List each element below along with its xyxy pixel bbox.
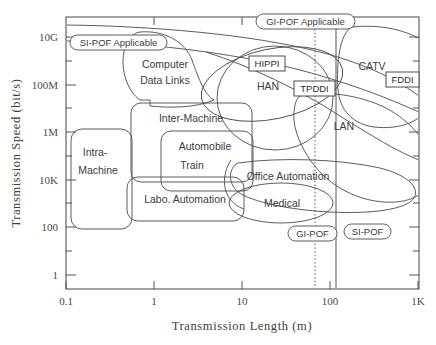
x-tick-0p1: 0.1 [59, 295, 73, 307]
label-office-automation: Office Automation [247, 170, 330, 182]
label-automobile: Automobile [179, 140, 232, 152]
pill-gi-pof-applicable-label: GI-POF Applicable [266, 16, 345, 27]
label-intra: Intra- [83, 146, 108, 158]
box-hippi: HIPPI [249, 56, 285, 71]
pill-si-pof-applicable: SI-POF Applicable [70, 35, 167, 50]
curve-office-left-connector [224, 160, 244, 209]
y-tick-1m: 1M [43, 126, 59, 138]
pill-gi-pof: GI-POF [288, 226, 337, 241]
chart-figure: 10G 100M 1M 10K 100 1 0.1 1 10 100 1K Tr… [0, 0, 436, 345]
pill-si-pof: SI-POF [344, 224, 391, 239]
box-tpddi-label: TPDDI [300, 83, 329, 94]
label-han: HAN [257, 80, 279, 92]
x-tick-10: 10 [237, 295, 249, 307]
y-axis-title: Transmission Speed (bit/s) [9, 78, 23, 227]
region-intra-machine [71, 129, 132, 229]
label-lan: LAN [334, 120, 354, 132]
pill-gi-pof-label: GI-POF [296, 228, 329, 239]
pill-si-pof-applicable-label: SI-POF Applicable [80, 37, 158, 48]
curve-pof-mid [206, 52, 419, 160]
label-medical: Medical [264, 197, 300, 209]
y-tick-100: 100 [42, 221, 59, 233]
pill-gi-pof-applicable: GI-POF Applicable [256, 14, 355, 29]
box-fddi-label: FDDI [391, 74, 413, 85]
label-train: Train [180, 159, 204, 171]
y-tick-10k: 10K [39, 174, 58, 186]
box-tpddi: TPDDI [294, 81, 335, 96]
y-axis-tick-labels: 10G 100M 1M 10K 100 1 [32, 31, 59, 281]
y-tick-1: 1 [53, 269, 59, 281]
pill-si-pof-label: SI-POF [352, 226, 384, 237]
label-machine: Machine [78, 164, 118, 176]
label-inter-machine: Inter-Machine [159, 112, 223, 124]
label-computer: Computer [142, 58, 189, 70]
x-tick-1k: 1K [411, 295, 425, 307]
transmission-speed-vs-length-chart: 10G 100M 1M 10K 100 1 0.1 1 10 100 1K Tr… [0, 0, 436, 345]
curve-si-pof-upper [66, 41, 419, 112]
region-office-automation [231, 160, 416, 213]
y-tick-100m: 100M [32, 79, 59, 91]
y-tick-10g: 10G [39, 31, 58, 43]
box-hippi-label: HIPPI [255, 58, 280, 69]
x-tick-100: 100 [322, 295, 339, 307]
box-fddi: FDDI [386, 72, 419, 87]
label-catv: CATV [358, 60, 385, 72]
x-axis-tick-labels: 0.1 1 10 100 1K [59, 295, 425, 307]
label-labo-automation: Labo. Automation [144, 193, 226, 205]
label-data-links: Data Links [140, 74, 190, 86]
region-labels: Computer Data Links Inter-Machine Intra-… [78, 58, 385, 209]
x-axis-title: Transmission Length (m) [172, 319, 312, 333]
x-tick-1: 1 [151, 295, 157, 307]
